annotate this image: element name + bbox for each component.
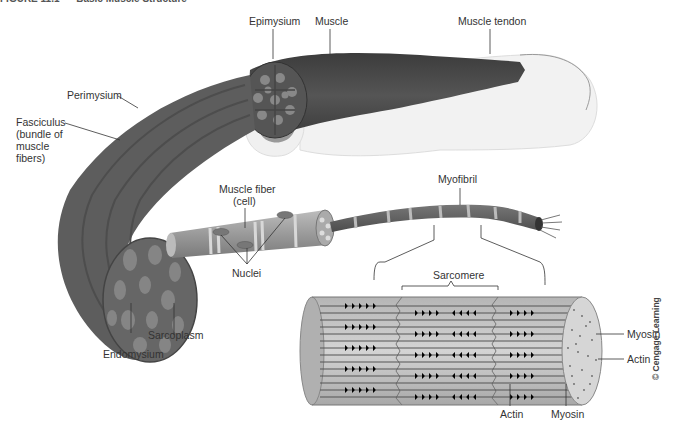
zoom-line-left xyxy=(374,225,434,280)
label-myofibril: Myofibril xyxy=(438,173,477,185)
label-endomysium: Endomysium xyxy=(103,348,164,360)
muscle-fiber-graphic xyxy=(166,210,334,258)
zoom-line-right xyxy=(481,225,545,285)
label-myosin-bottom: Myosin xyxy=(551,408,584,420)
label-fasciculus-3: muscle xyxy=(16,140,49,152)
sarcomere-cylinder-graphic xyxy=(300,297,602,405)
copyright-credit: © Cengage Learning xyxy=(651,297,661,380)
label-muscle: Muscle xyxy=(315,15,348,27)
myofibril-graphic xyxy=(330,205,562,238)
label-muscle-fiber-1: Muscle fiber xyxy=(219,183,276,195)
label-sarcomere: Sarcomere xyxy=(433,269,485,281)
label-epimysium: Epimysium xyxy=(249,15,301,27)
label-perimysium: Perimysium xyxy=(67,89,122,101)
label-fasciculus-4: fibers) xyxy=(16,152,45,164)
label-muscle-tendon: Muscle tendon xyxy=(458,15,526,27)
label-fasciculus-1: Fasciculus xyxy=(16,116,66,128)
label-actin-bottom: Actin xyxy=(500,408,524,420)
muscle-structure-diagram: Epimysium Muscle Muscle tendon Perimysiu… xyxy=(0,0,674,433)
label-fasciculus-2: (bundle of xyxy=(16,128,63,140)
label-sarcoplasm: Sarcoplasm xyxy=(148,329,204,341)
label-muscle-fiber-2: (cell) xyxy=(233,195,256,207)
label-nuclei: Nuclei xyxy=(232,267,261,279)
sarcomere-bracket xyxy=(402,281,498,290)
label-actin-end: Actin xyxy=(627,353,651,365)
